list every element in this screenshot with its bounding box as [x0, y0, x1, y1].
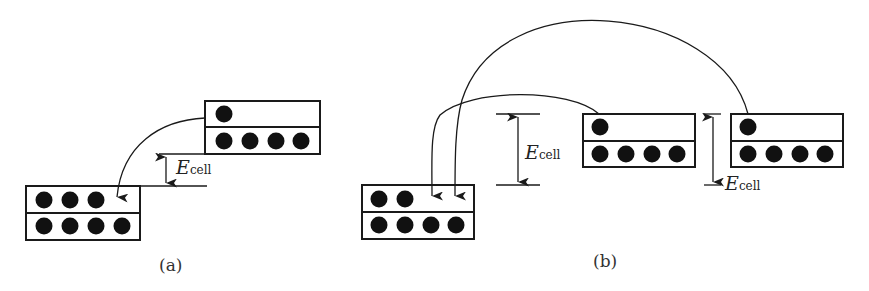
energy-symbol: E [176, 156, 190, 178]
panel-b-transition-arrow-2 [455, 21, 748, 196]
panel-b [362, 21, 843, 239]
diagram-canvas [0, 0, 869, 291]
panel-a-caption: (a) [159, 255, 182, 275]
panel-b-lower-electrode-box [362, 185, 474, 239]
panel-b-upper-electrode-1-box [583, 114, 695, 167]
electron-row-upper [592, 119, 609, 136]
energy-subscript: cell [739, 179, 761, 193]
energy-subscript: cell [190, 163, 212, 177]
panel-b-transition-arrow-1 [432, 95, 599, 196]
electron-row-upper [216, 106, 233, 123]
panel-a-lower-electrode-box [26, 186, 140, 240]
energy-symbol: E [525, 141, 539, 163]
energy-subscript: cell [539, 148, 561, 162]
energy-symbol: E [725, 172, 739, 194]
panel-a [26, 101, 320, 240]
electron-row-upper [740, 119, 757, 136]
panel-b-energy-gap-2 [704, 114, 721, 185]
panel-a-upper-electrode-box [205, 101, 320, 154]
electron-row-upper [36, 192, 105, 209]
panel-b-energy-label-1: Ecell [525, 141, 560, 163]
panel-b-caption: (b) [593, 251, 617, 271]
panel-b-energy-label-2: Ecell [725, 172, 760, 194]
panel-a-energy-label: Ecell [176, 156, 211, 178]
panel-b-upper-electrode-2-box [731, 114, 843, 167]
